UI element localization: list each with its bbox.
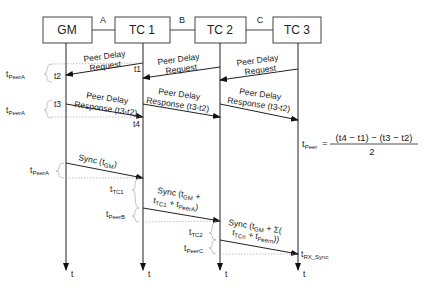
t3-label: t3 [54,99,61,109]
t2-label: t2 [54,71,61,81]
peer-a-brace-2 [44,100,52,118]
gm-time-axis-label: t [71,269,74,279]
tc2-time-axis-label: t [225,269,228,279]
node-tc1: TC 1 [115,17,170,43]
sync-tc1-dotted [143,221,220,222]
formula-numerator: (t4 − t1) − (t3 − t2) [336,132,413,143]
link-b-label: B [179,15,185,25]
sync-gm-label: Sync (tGM) [77,152,118,170]
t-peer-a-label-2: tPeerA [6,105,25,116]
node-tc2: TC 2 [195,17,246,43]
tc2-residence-brace [209,222,216,240]
formula-lhs: tPeer [302,138,317,150]
t-peer-a-label-1: tPeerA [6,69,25,80]
tc1-residence-brace [132,178,139,208]
peer-c-brace [209,240,216,254]
t-tc1-label: tTC1 [110,184,124,195]
ptp-timing-diagram: A B C GM TC 1 TC 2 TC 3 t t t t Peer Del… [0,0,431,295]
node-tc3: TC 3 [273,17,321,43]
formula-equals: = [322,137,328,148]
peer-delay-formula: tPeer = (t4 − t1) − (t3 − t2) 2 [302,132,418,157]
link-a-label: A [100,15,106,25]
tc1-time-axis-label: t [148,269,151,279]
node-tc3-label: TC 3 [284,23,310,37]
node-tc1-label: TC 1 [129,23,155,37]
t-peer-b-label: tPeerB [106,209,125,220]
t-rx-sync-label: tRX_Sync [301,249,328,260]
peer-a-brace-1 [44,64,52,82]
tc3-time-axis-label: t [303,269,306,279]
node-gm: GM [43,17,92,43]
t1-label: t1 [134,64,141,74]
peer-b-brace [132,208,139,222]
t4-label: t4 [133,119,140,129]
t-peer-a-sync-label: tPeerA [30,165,49,176]
peer-a-brace-sync [56,163,64,178]
formula-denominator: 2 [369,146,374,157]
t-peer-c-label: tPeerC [184,243,204,254]
node-tc2-label: TC 2 [207,23,233,37]
t-tc2-label: tTC2 [189,227,203,238]
link-c-label: C [257,15,264,25]
node-gm-label: GM [57,23,76,37]
